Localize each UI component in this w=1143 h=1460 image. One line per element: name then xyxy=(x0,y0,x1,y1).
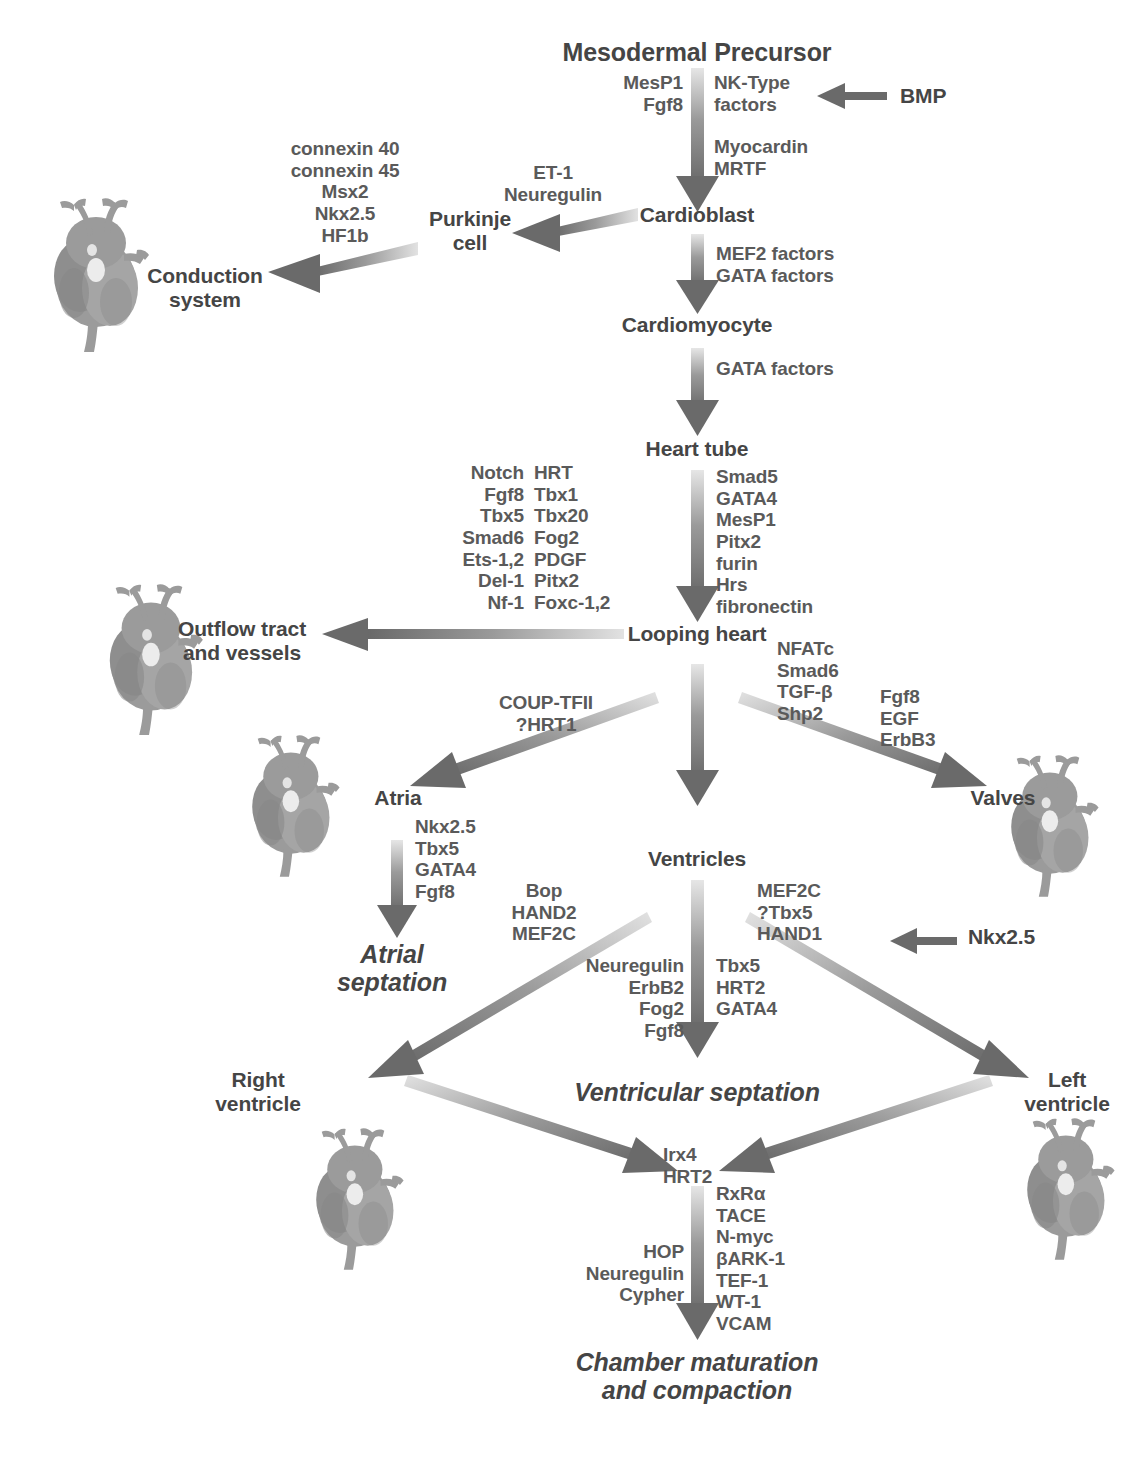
node-outflow-tract: Outflow tract and vessels xyxy=(178,617,306,664)
factor-hf1b: HF1b xyxy=(321,225,368,246)
factor-mef2: MEF2 factors xyxy=(716,243,834,264)
factor-gata: GATA factors xyxy=(716,265,834,286)
factor-hrs: Hrs xyxy=(716,574,747,595)
factor-tgf-beta: TGF-β xyxy=(777,681,832,702)
factor-pdgf: PDGF xyxy=(534,549,586,570)
heart-right-ventricle-icon xyxy=(316,1128,403,1269)
factor-vcam: VCAM xyxy=(716,1313,772,1334)
factor-ets12: Ets-1,2 xyxy=(462,549,524,570)
factor-tace: TACE xyxy=(716,1205,766,1226)
heart-left-ventricle-icon xyxy=(1027,1118,1114,1259)
factor-egf: EGF xyxy=(880,708,919,729)
factor-nf1: Nf-1 xyxy=(487,592,524,613)
factor-gata4: GATA4 xyxy=(716,488,777,509)
arrow-looping-heart-to-ventricles xyxy=(676,664,719,806)
factor-erbb2: ErbB2 xyxy=(629,977,684,998)
arrow-nkx25-to-hand1 xyxy=(890,928,957,954)
arrow-looping-to-outflow xyxy=(322,618,624,651)
factor-cypher: Cypher xyxy=(619,1284,684,1305)
node-atria: Atria xyxy=(374,786,421,810)
factors-outflow-col2: HRTTbx1Tbx20Fog2PDGFPitx2Foxc-1,2 xyxy=(534,462,610,614)
arrow-looping-to-valves xyxy=(738,692,987,788)
factor-tbx5-vs: Tbx5 xyxy=(716,955,760,976)
factor-neuregulin-mat: Neuregulin xyxy=(586,1263,684,1284)
input-bmp: BMP xyxy=(900,84,946,108)
factors-precursor-right-top: NK-Typefactors xyxy=(714,72,790,115)
factor-fgf8-at: Fgf8 xyxy=(415,881,455,902)
factors-precursor-left: MesP1Fgf8 xyxy=(623,72,683,115)
node-looping-heart: Looping heart xyxy=(628,622,767,646)
factor-nk-type: NK-Type xyxy=(714,72,790,93)
factor-hrt: HRT xyxy=(534,462,573,483)
node-purkinje-cell: Purkinje cell xyxy=(429,207,511,254)
factor-neuregulin-vs: Neuregulin xyxy=(586,955,684,976)
factor-connexin-40: connexin 40 xyxy=(291,138,400,159)
factor-myocardin: Myocardin xyxy=(714,136,808,157)
node-left-ventricle: Left ventricle xyxy=(1024,1068,1109,1115)
factors-vent-septation-right: Tbx5HRT2GATA4 xyxy=(716,955,777,1020)
arrow-cardiomyocyte-to-heart-tube xyxy=(676,348,719,436)
factor-rxr-alpha: RxRα xyxy=(716,1183,765,1204)
factor-wt1: WT-1 xyxy=(716,1291,761,1312)
factor-tbx20: Tbx20 xyxy=(534,505,588,526)
factor-hand1: HAND1 xyxy=(757,923,822,944)
factor-mef2c-lv: MEF2C xyxy=(757,880,821,901)
factors-right-ventricle-branch: BopHAND2MEF2C xyxy=(512,880,577,945)
node-atrial-septation: Atrial septation xyxy=(337,940,447,996)
factor-gata4-vs: GATA4 xyxy=(716,998,777,1019)
factors-heart-tube-to-looping: Smad5GATA4MesP1Pitx2furinHrsfibronectin xyxy=(716,466,813,618)
factor-fog2-of: Fog2 xyxy=(534,527,579,548)
factors-precursor-right-bottom: MyocardinMRTF xyxy=(714,136,808,179)
input-nkx25: Nkx2.5 xyxy=(968,925,1035,949)
factors-valves-col2: Fgf8EGFErbB3 xyxy=(880,686,935,751)
factor-et1: ET-1 xyxy=(533,162,573,183)
node-cardiomyocyte: Cardiomyocyte xyxy=(622,313,772,337)
factor-fibronectin: fibronectin xyxy=(716,596,813,617)
factor-mesp1: MesP1 xyxy=(623,72,683,93)
factors-outflow-col1: NotchFgf8Tbx5Smad6Ets-1,2Del-1Nf-1 xyxy=(462,462,524,614)
node-ventricles: Ventricles xyxy=(648,847,746,871)
heart-atria-icon xyxy=(252,735,339,876)
factors-atria-branch: COUP-TFII?HRT1 xyxy=(499,692,593,735)
factor-pitx2-of: Pitx2 xyxy=(534,570,579,591)
factor-nk-type-cont: factors xyxy=(714,94,777,115)
pathway-diagram: Mesodermal Precursor MesP1Fgf8 NK-Typefa… xyxy=(0,0,1143,1460)
arrow-cardioblast-to-purkinje xyxy=(512,208,638,252)
factor-mef2c-rv: MEF2C xyxy=(512,923,576,944)
factor-bop: Bop xyxy=(526,880,563,901)
node-cardioblast: Cardioblast xyxy=(640,203,754,227)
factor-hrt2-vs: HRT2 xyxy=(716,977,765,998)
factor-notch: Notch xyxy=(471,462,524,483)
factor-hand2: HAND2 xyxy=(512,902,577,923)
factors-left-ventricle-branch: MEF2C?Tbx5HAND1 xyxy=(757,880,822,945)
factor-hop: HOP xyxy=(643,1241,684,1262)
node-mesodermal-precursor: Mesodermal Precursor xyxy=(563,38,832,66)
factors-purkinje: ET-1Neuregulin xyxy=(504,162,602,205)
arrow-atria-to-atrial-septation xyxy=(377,840,417,938)
factor-coup-tfii: COUP-TFII xyxy=(499,692,593,713)
factor-neuregulin: Neuregulin xyxy=(504,184,602,205)
factor-nfatc: NFATc xyxy=(777,638,834,659)
factor-n-myc: N-myc xyxy=(716,1226,774,1247)
factors-cardiomyocyte-to-heart-tube: GATA factors xyxy=(716,358,834,380)
node-conduction-system: Conduction system xyxy=(147,264,263,311)
factor-shp2: Shp2 xyxy=(777,703,823,724)
factor-smad6-of: Smad6 xyxy=(462,527,524,548)
factor-tbx5-lv: ?Tbx5 xyxy=(757,902,812,923)
node-valves: Valves xyxy=(971,786,1036,810)
factor-hrt1: ?HRT1 xyxy=(516,714,577,735)
arrow-heart-tube-to-looping-heart xyxy=(676,470,719,622)
arrow-cardioblast-to-cardiomyocyte xyxy=(676,234,719,314)
factor-pitx2: Pitx2 xyxy=(716,531,761,552)
arrow-bmp-to-nk-type xyxy=(817,83,887,109)
factor-smad6-v: Smad6 xyxy=(777,660,839,681)
factors-atrial-septation: Nkx2.5Tbx5GATA4Fgf8 xyxy=(415,816,476,903)
factor-mrtf: MRTF xyxy=(714,158,766,179)
factors-valves-col1: NFATcSmad6TGF-βShp2 xyxy=(777,638,839,725)
heart-conduction-system-icon xyxy=(54,198,149,352)
node-chamber-maturation: Chamber maturation and compaction xyxy=(576,1348,819,1404)
factor-irx4: Irx4 xyxy=(663,1144,696,1165)
node-heart-tube: Heart tube xyxy=(646,437,749,461)
factor-tbx1: Tbx1 xyxy=(534,484,578,505)
factor-hrt2-cv: HRT2 xyxy=(663,1166,712,1187)
